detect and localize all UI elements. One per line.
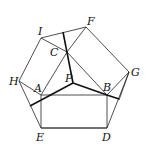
label-g: G bbox=[131, 66, 140, 79]
label-c: C bbox=[50, 46, 59, 59]
label-p: P bbox=[64, 72, 73, 85]
label-b: B bbox=[102, 81, 111, 94]
rect-abde bbox=[41, 95, 107, 128]
label-a: A bbox=[33, 82, 42, 95]
label-h: H bbox=[8, 75, 19, 88]
seg-gd-inner bbox=[119, 72, 129, 100]
label-f: F bbox=[86, 15, 95, 28]
label-i: I bbox=[37, 25, 43, 38]
thick-b-gd bbox=[107, 95, 119, 99]
label-d: D bbox=[101, 131, 111, 144]
label-e: E bbox=[35, 131, 44, 144]
geometry-diagram: I F C G H A P B E D bbox=[0, 0, 148, 152]
